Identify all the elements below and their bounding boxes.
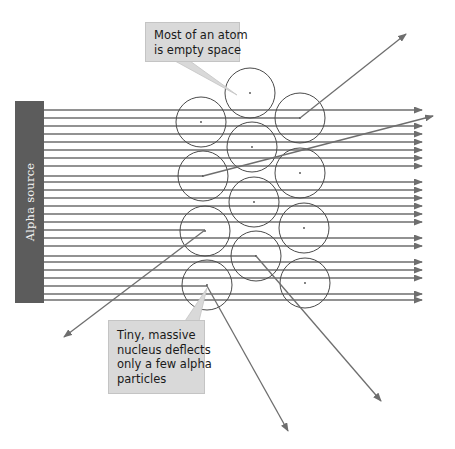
nucleus-dot — [299, 172, 301, 174]
deflected-beam — [207, 286, 288, 431]
nucleus-dot — [253, 201, 255, 203]
alpha-source-bar: Alpha source — [15, 101, 44, 303]
diagram-canvas — [0, 0, 455, 449]
callout-text-line: only a few alpha — [117, 357, 204, 372]
nucleus-dot — [200, 121, 202, 123]
callout-text-line: Most of an atom — [154, 28, 239, 43]
callout-empty-space: Most of an atom is empty space — [145, 22, 240, 62]
callout-text-line: nucleus deflects — [117, 343, 204, 358]
callout-nucleus: Tiny, massive nucleus deflects only a fe… — [108, 320, 205, 394]
nucleus-dot — [304, 282, 306, 284]
nucleus-dot — [303, 227, 305, 229]
nucleus-dot — [249, 92, 251, 94]
callout-pointer-bottom — [185, 288, 207, 321]
callout-text-line: Tiny, massive — [117, 328, 204, 343]
atom-grid — [176, 68, 330, 310]
nucleus-dot — [206, 284, 208, 286]
callout-pointers — [175, 61, 237, 321]
callout-pointer-top — [175, 61, 237, 95]
deflected-beam — [300, 34, 406, 118]
deflected-beam — [203, 116, 433, 176]
callout-text-line: is empty space — [154, 43, 239, 58]
alpha-source-label: Alpha source — [23, 163, 37, 242]
alpha-beams — [44, 110, 422, 300]
rutherford-diagram: Alpha source Most of an atom is empty sp… — [0, 0, 455, 449]
nucleus-dot — [251, 146, 253, 148]
callout-text-line: particles — [117, 372, 204, 387]
